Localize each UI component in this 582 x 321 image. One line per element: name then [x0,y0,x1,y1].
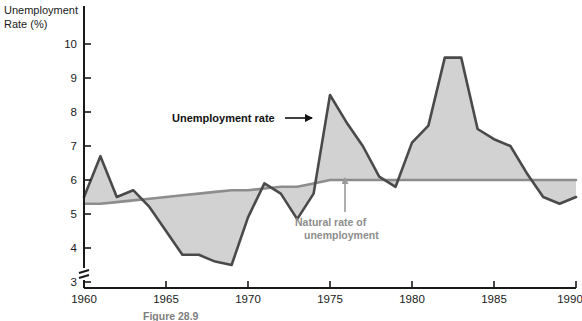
y-axis-break-mark-lower [79,275,89,278]
x-tick-label: 1960 [71,293,97,305]
y-tick-label: 6 [71,174,77,186]
x-tick-label: 1975 [317,293,343,305]
annotation-natural-rate-label-line2: unemployment [304,229,379,241]
y-tick-label: 5 [71,208,77,220]
y-axis-break-mark-upper [79,270,89,273]
y-tick-label: 9 [71,72,77,84]
x-tick-label: 1970 [235,293,261,305]
y-axis-title-line1: Unemployment [4,4,78,16]
y-axis-ticks: 345678910 [64,38,91,288]
x-axis-ticks: 1960196519701975198019851990 [71,281,582,305]
y-tick-label: 4 [71,242,78,254]
annotation-unemployment-rate-label: Unemployment rate [172,112,275,124]
unemployment-rate-chart: 345678910 1960196519701975198019851990 U… [0,0,582,321]
y-tick-label: 8 [71,106,77,118]
y-tick-label: 10 [64,38,77,50]
y-axis-title-line2: Rate (%) [4,18,47,30]
x-tick-label: 1965 [153,293,179,305]
figure-container: 345678910 1960196519701975198019851990 U… [0,0,582,321]
x-tick-label: 1985 [481,293,507,305]
figure-caption: Figure 28.9 [143,310,199,321]
annotation-natural-rate-label-line1: Natural rate of [295,216,367,228]
x-tick-label: 1980 [399,293,425,305]
y-tick-label: 7 [71,140,77,152]
x-tick-label: 1990 [557,293,582,305]
y-tick-label: 3 [71,276,77,288]
